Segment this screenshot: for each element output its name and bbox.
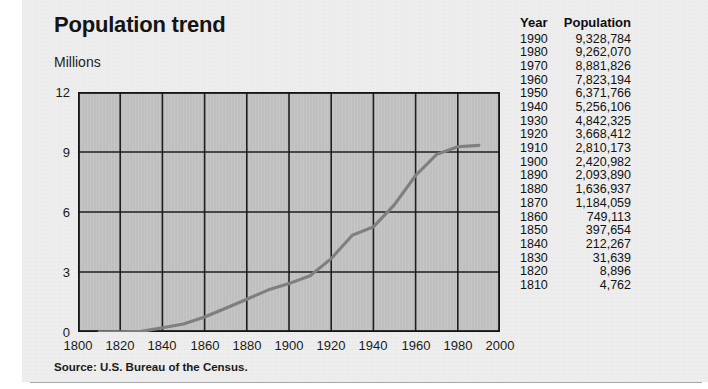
- cell-year: 1900: [520, 155, 564, 169]
- table-row: 1840212,267: [520, 237, 631, 251]
- cell-population: 8,881,826: [564, 59, 631, 73]
- population-line-chart: [78, 92, 500, 332]
- table-row: 19708,881,826: [520, 59, 631, 73]
- table-row: 19203,668,412: [520, 128, 631, 142]
- cell-year: 1820: [520, 265, 564, 279]
- table-row: 19002,420,982: [520, 155, 631, 169]
- cell-year: 1890: [520, 169, 564, 183]
- cell-population: 2,093,890: [564, 169, 631, 183]
- y-axis-unit-label: Millions: [54, 54, 101, 70]
- column-header-population: Population: [564, 16, 631, 32]
- cell-population: 7,823,194: [564, 73, 631, 87]
- y-tick-label-9: 9: [36, 145, 70, 160]
- cell-year: 1850: [520, 224, 564, 238]
- cell-population: 5,256,106: [564, 100, 631, 114]
- bottom-divider: [30, 382, 702, 383]
- table-row: 1860749,113: [520, 210, 631, 224]
- cell-population: 749,113: [564, 210, 631, 224]
- cell-population: 2,810,173: [564, 142, 631, 156]
- cell-population: 212,267: [564, 237, 631, 251]
- cell-year: 1920: [520, 128, 564, 142]
- x-tick-label-2000: 2000: [475, 338, 525, 353]
- table-row: 19102,810,173: [520, 142, 631, 156]
- cell-year: 1910: [520, 142, 564, 156]
- table-row: 18801,636,937: [520, 183, 631, 197]
- chart-plot-area: [78, 92, 500, 332]
- cell-year: 1980: [520, 46, 564, 60]
- page-title: Population trend: [54, 12, 226, 38]
- population-trend-figure: Population trend Millions: [0, 0, 708, 389]
- cell-year: 1810: [520, 278, 564, 292]
- table-body: 19909,328,78419809,262,07019708,881,8261…: [520, 32, 631, 292]
- table-row: 19405,256,106: [520, 100, 631, 114]
- cell-population: 4,842,325: [564, 114, 631, 128]
- cell-year: 1950: [520, 87, 564, 101]
- table-row: 19909,328,784: [520, 32, 631, 46]
- table-header-row: Year Population: [520, 16, 631, 32]
- cell-year: 1940: [520, 100, 564, 114]
- table-row: 18701,184,059: [520, 196, 631, 210]
- cell-population: 9,262,070: [564, 46, 631, 60]
- y-tick-label-12: 12: [36, 85, 70, 100]
- cell-year: 1840: [520, 237, 564, 251]
- table-row: 19506,371,766: [520, 87, 631, 101]
- table-row: 183031,639: [520, 251, 631, 265]
- cell-population: 3,668,412: [564, 128, 631, 142]
- table-row: 1850397,654: [520, 224, 631, 238]
- population-data-table: Year Population 19909,328,78419809,262,0…: [520, 16, 631, 292]
- cell-population: 9,328,784: [564, 32, 631, 46]
- y-tick-label-6: 6: [36, 205, 70, 220]
- cell-year: 1970: [520, 59, 564, 73]
- cell-population: 31,639: [564, 251, 631, 265]
- table-row: 18208,896: [520, 265, 631, 279]
- cell-year: 1870: [520, 196, 564, 210]
- cell-population: 6,371,766: [564, 87, 631, 101]
- cell-year: 1930: [520, 114, 564, 128]
- table-row: 19809,262,070: [520, 46, 631, 60]
- cell-year: 1880: [520, 183, 564, 197]
- cell-year: 1860: [520, 210, 564, 224]
- cell-year: 1960: [520, 73, 564, 87]
- cell-population: 1,184,059: [564, 196, 631, 210]
- cell-population: 2,420,982: [564, 155, 631, 169]
- table-row: 18104,762: [520, 278, 631, 292]
- y-tick-label-3: 3: [36, 265, 70, 280]
- table-row: 19607,823,194: [520, 73, 631, 87]
- cell-population: 1,636,937: [564, 183, 631, 197]
- cell-population: 4,762: [564, 278, 631, 292]
- table-row: 18902,093,890: [520, 169, 631, 183]
- cell-year: 1990: [520, 32, 564, 46]
- source-note: Source: U.S. Bureau of the Census.: [54, 361, 248, 373]
- table-row: 19304,842,325: [520, 114, 631, 128]
- cell-year: 1830: [520, 251, 564, 265]
- cell-population: 8,896: [564, 265, 631, 279]
- column-header-year: Year: [520, 16, 564, 32]
- cell-population: 397,654: [564, 224, 631, 238]
